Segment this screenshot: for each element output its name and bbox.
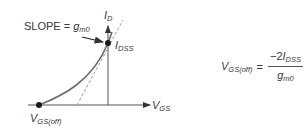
formula-fraction: −2IDSS gm0 [268,50,303,83]
idss-point [105,40,111,46]
formula-denominator: gm0 [277,67,294,83]
x-axis-label: VGS [152,100,170,113]
idss-label: IDSS [115,40,133,53]
formula-equals: = [257,61,263,73]
transfer-curve [39,32,112,105]
y-axis-sub: D [107,14,112,23]
denominator-sub: m0 [283,74,293,83]
y-axis-label: ID [104,10,112,23]
slope-sub: m0 [79,25,89,34]
vgs-off-formula: VGS(off) = −2IDSS gm0 [221,50,303,83]
formula-lhs-sub: GS(off) [228,65,252,74]
formula-lhs: VGS(off) [221,60,253,74]
vgs-off-label: VGS(off) [30,113,62,126]
formula-numerator: −2IDSS [268,50,303,67]
slope-label: SLOPE = gm0 [24,21,90,34]
slope-pointer-arrow [82,37,103,42]
vgs-off-sub: GS(off) [37,117,61,126]
vgs-off-point [36,102,42,108]
x-axis-sub: GS [159,104,170,113]
slope-prefix: SLOPE = [24,20,73,32]
numerator-prefix: −2 [270,50,283,62]
idss-sub: DSS [118,44,133,53]
numerator-sub: DSS [286,55,301,64]
